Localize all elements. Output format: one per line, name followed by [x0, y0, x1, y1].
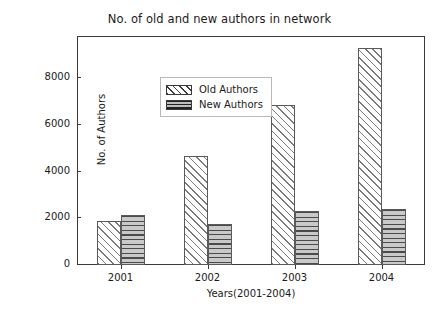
bar-2001-old [97, 221, 121, 265]
x-tick-mark [382, 265, 383, 269]
x-axis-label: Years(2001-2004) [77, 288, 425, 299]
bar-2002-old [184, 156, 208, 265]
y-tick-label: 0 [64, 258, 70, 269]
bar-2004-old [358, 48, 382, 265]
bar-2002-new [208, 224, 232, 265]
y-tick-mark [77, 124, 81, 125]
y-tick-label: 8000 [45, 71, 70, 82]
y-tick-label: 6000 [45, 118, 70, 129]
y-tick-label: 4000 [45, 165, 70, 176]
legend-item-old-authors: Old Authors [166, 82, 263, 97]
legend-item-new-authors: New Authors [166, 97, 263, 112]
bar-chart-figure: No. of old and new authors in network No… [0, 0, 439, 311]
legend-label: Old Authors [199, 84, 258, 95]
x-tick-label: 2001 [91, 272, 151, 283]
y-tick-mark [77, 171, 81, 172]
diagonal-hatch-swatch-icon [166, 85, 192, 95]
x-tick-label: 2003 [265, 272, 325, 283]
x-tick-mark [295, 265, 296, 269]
legend-label: New Authors [199, 99, 263, 110]
y-axis-label: No. of Authors [96, 70, 107, 190]
y-tick-mark [77, 264, 81, 265]
x-tick-mark [121, 265, 122, 269]
horizontal-hatch-swatch-icon [166, 100, 192, 110]
x-tick-mark [208, 265, 209, 269]
x-tick-label: 2002 [178, 272, 238, 283]
y-tick-mark [77, 217, 81, 218]
chart-legend: Old Authors New Authors [160, 77, 272, 117]
bar-2001-new [121, 215, 145, 265]
y-tick-mark [77, 77, 81, 78]
plot-area: No. of Authors 02000400060008000 2001200… [77, 36, 425, 265]
x-tick-label: 2004 [352, 272, 412, 283]
bar-2003-new [295, 211, 319, 265]
chart-title: No. of old and new authors in network [0, 12, 439, 26]
bar-2003-old [271, 105, 295, 265]
y-tick-label: 2000 [45, 211, 70, 222]
bar-2004-new [382, 209, 406, 265]
